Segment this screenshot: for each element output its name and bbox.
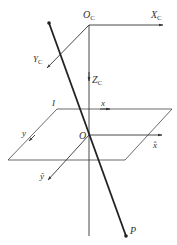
world-point-label: P [129, 225, 136, 236]
normalized-y-label: ŷ [39, 171, 44, 181]
projection-diagram: OC XC YC ZC I x y O x̂ ŷ P [0, 0, 177, 245]
camera-y-label: YC [33, 54, 42, 65]
projection-ray [49, 23, 126, 236]
camera-y-axis [47, 25, 89, 68]
ray-end-dot [47, 21, 51, 25]
image-y-arrow [29, 135, 35, 141]
image-plane-label: I [51, 98, 56, 108]
normalized-y-axis [48, 135, 89, 180]
principal-point-label: O [79, 130, 86, 141]
camera-z-label: ZC [92, 74, 103, 87]
image-x-label: x [100, 98, 105, 108]
image-y-label: y [21, 128, 26, 138]
normalized-x-label: x̂ [152, 140, 157, 150]
camera-origin-label: OC [83, 9, 95, 22]
world-point-dot [124, 234, 128, 238]
camera-x-label: XC [150, 9, 162, 22]
